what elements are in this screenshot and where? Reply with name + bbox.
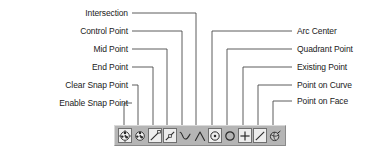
callout-label-point-on-face: Point on Face (297, 96, 348, 106)
toolbar-button-enable-snap-point[interactable] (118, 128, 132, 143)
existing-point-icon (239, 130, 251, 142)
toolbar-button-intersection[interactable] (193, 128, 207, 143)
toolbar-button-mid-point[interactable] (163, 128, 177, 143)
point-on-face-icon (269, 130, 281, 142)
leader-line-existing-point (243, 67, 292, 125)
leader-line-arc-center (212, 31, 292, 125)
toolbar-button-arc-center[interactable] (208, 128, 222, 143)
snap-point-toolbar[interactable] (114, 125, 286, 146)
intersection-icon (194, 130, 206, 142)
leader-line-mid-point (132, 49, 167, 125)
callout-label-quadrant-point: Quadrant Point (297, 44, 353, 54)
point-on-curve-icon (254, 130, 266, 142)
toolbar-button-point-on-curve[interactable] (253, 128, 267, 143)
callout-label-mid-point: Mid Point (93, 44, 128, 54)
callout-label-arc-center: Arc Center (297, 26, 337, 36)
toolbar-button-existing-point[interactable] (238, 128, 252, 143)
line-midpoint-icon (164, 130, 176, 142)
toolbar-button-point-on-face[interactable] (268, 128, 282, 143)
callout-label-intersection: Intersection (85, 8, 128, 18)
quadrant-point-icon (224, 130, 236, 142)
spline-control-icon (179, 130, 191, 142)
callout-label-enable-snap-point: Enable Snap Point (59, 98, 128, 108)
callout-label-point-on-curve: Point on Curve (297, 80, 352, 90)
leader-line-quadrant-point (227, 49, 292, 125)
leader-line-intersection (132, 13, 196, 125)
snap-ball-icon (119, 130, 131, 142)
toolbar-button-control-point[interactable] (178, 128, 192, 143)
leader-line-end-point (132, 67, 153, 125)
leader-line-point-on-curve (258, 85, 292, 125)
toolbar-button-clear-snap-point[interactable] (133, 128, 147, 143)
arc-center-icon (209, 130, 221, 142)
snap-ball-clear-icon (134, 130, 146, 142)
callout-label-existing-point: Existing Point (297, 62, 347, 72)
leader-line-control-point (132, 31, 182, 125)
callout-label-end-point: End Point (92, 62, 128, 72)
callout-label-clear-snap-point: Clear Snap Point (65, 80, 128, 90)
diagram-canvas: IntersectionControl PointMid PointEnd Po… (0, 0, 381, 152)
leader-line-point-on-face (273, 101, 292, 125)
callout-label-control-point: Control Point (80, 26, 128, 36)
leader-line-clear-snap-point (132, 85, 138, 125)
toolbar-button-quadrant-point[interactable] (223, 128, 237, 143)
toolbar-button-end-point[interactable] (148, 128, 162, 143)
line-endpoint-icon (149, 130, 161, 142)
